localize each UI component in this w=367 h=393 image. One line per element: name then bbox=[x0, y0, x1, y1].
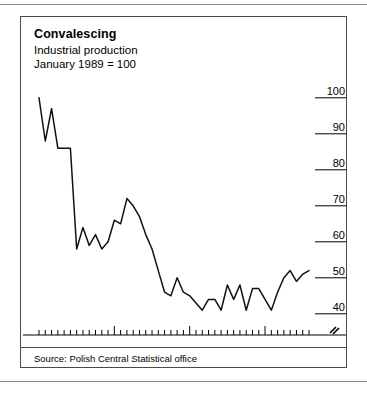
x-axis-tick-label: 1992 bbox=[290, 343, 316, 344]
y-axis-tick-label: 90 bbox=[333, 121, 345, 133]
source-divider bbox=[21, 347, 346, 348]
source-note: Source: Polish Central Statistical offic… bbox=[34, 353, 197, 365]
data-series-line bbox=[39, 98, 309, 310]
y-axis-tick-label: 70 bbox=[333, 193, 345, 205]
figure-page: Convalescing Industrial production Janua… bbox=[0, 0, 367, 393]
x-axis-tick-label: 1990 bbox=[139, 343, 165, 344]
top-divider bbox=[0, 4, 367, 5]
x-axis-tick-label: 1989 bbox=[64, 343, 90, 344]
x-axis-tick-label: 1991 bbox=[215, 343, 241, 344]
y-axis-tick-label: 40 bbox=[333, 301, 345, 313]
page-title: Convalescing bbox=[34, 27, 324, 42]
y-axis-tick-label: 80 bbox=[333, 157, 345, 169]
figure-subtitle-1: Industrial production bbox=[34, 43, 324, 57]
figure-subtitle-2: January 1989 = 100 bbox=[34, 57, 324, 71]
bottom-divider bbox=[0, 381, 367, 382]
line-chart: 4050607080901001989199019911992 bbox=[21, 79, 346, 344]
chart-figure: Convalescing Industrial production Janua… bbox=[20, 16, 347, 368]
y-axis-tick-label: 60 bbox=[333, 229, 345, 241]
plot-area: 4050607080901001989199019911992 bbox=[21, 79, 346, 344]
y-axis-tick-label: 50 bbox=[333, 265, 345, 277]
axis-break-icon bbox=[330, 327, 339, 334]
figure-header: Convalescing Industrial production Janua… bbox=[34, 27, 324, 71]
y-axis-tick-label: 100 bbox=[327, 85, 345, 97]
